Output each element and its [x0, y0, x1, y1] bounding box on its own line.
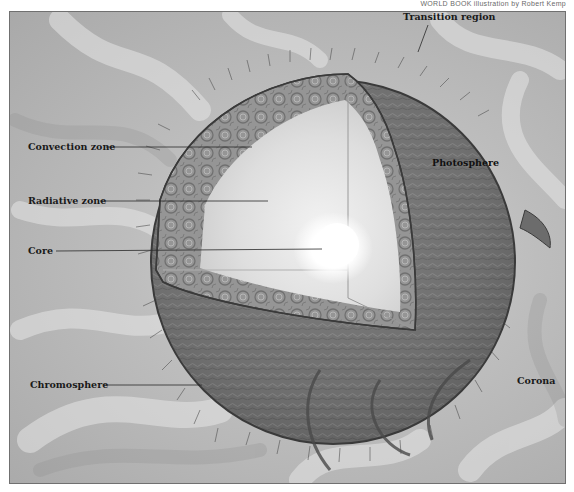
sun-cutaway-illustration	[0, 0, 574, 492]
surface-prominence	[520, 210, 550, 248]
pointer-transition-region	[418, 25, 428, 52]
label-radiative-zone: Radiative zone	[28, 196, 106, 206]
label-corona: Corona	[517, 376, 555, 386]
label-chromosphere: Chromosphere	[30, 380, 108, 390]
label-photosphere: Photosphere	[432, 158, 499, 168]
label-convection-zone: Convection zone	[28, 142, 115, 152]
label-transition-region: Transition region	[403, 12, 496, 22]
label-core: Core	[28, 246, 53, 256]
